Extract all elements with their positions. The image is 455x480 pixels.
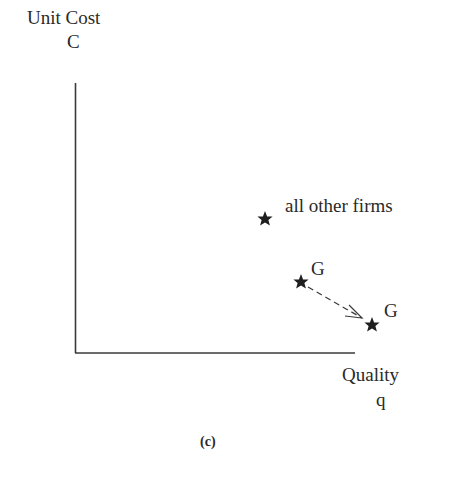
point-label-g-after: G xyxy=(384,300,398,322)
quality-cost-diagram: Unit Cost C Quality q all other firms G … xyxy=(0,0,455,480)
star-icon-g-after xyxy=(364,317,379,332)
x-axis-title: Quality xyxy=(342,364,399,386)
point-label-g-before: G xyxy=(311,258,325,280)
figure-caption: (c) xyxy=(200,434,216,450)
dashed-arrow-line xyxy=(308,287,362,318)
y-axis-variable: C xyxy=(67,31,80,53)
star-icon-all-other-firms xyxy=(257,211,272,226)
diagram-canvas xyxy=(0,0,455,480)
star-icon-g-before xyxy=(293,274,308,289)
x-axis-variable: q xyxy=(376,389,386,411)
point-label-all-other-firms: all other firms xyxy=(285,195,393,217)
y-axis-title: Unit Cost xyxy=(27,7,100,29)
arrowhead-icon xyxy=(345,305,362,318)
